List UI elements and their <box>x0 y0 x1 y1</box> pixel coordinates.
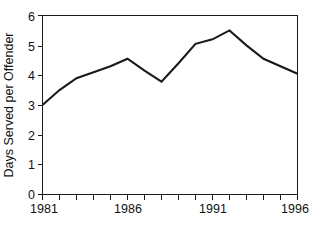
x-tick-label-1996: 1996 <box>281 202 309 216</box>
y-tick-label-5: 5 <box>28 40 35 54</box>
y-tick-label-0: 0 <box>28 188 35 202</box>
data-series-line <box>43 30 298 105</box>
x-tick-label-1981: 1981 <box>30 202 58 216</box>
axis-frame <box>43 16 298 195</box>
y-tick-label-1: 1 <box>28 158 35 172</box>
chart-figure: 0 1 2 3 4 5 6 1981 1986 1991 <box>0 0 322 228</box>
x-tick-label-1991: 1991 <box>199 202 227 216</box>
x-tick-label-1986: 1986 <box>114 202 142 216</box>
y-tick-label-3: 3 <box>28 99 35 113</box>
y-axis-title: Days Served per Offender <box>2 33 16 178</box>
y-tick-label-2: 2 <box>28 129 35 143</box>
y-tick-label-6: 6 <box>28 10 35 24</box>
line-chart: 0 1 2 3 4 5 6 1981 1986 1991 <box>0 0 322 228</box>
y-tick-label-4: 4 <box>28 69 35 83</box>
